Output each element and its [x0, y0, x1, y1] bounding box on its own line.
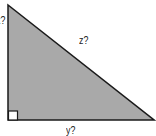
hypotenuse-label: z? [79, 34, 88, 46]
triangle-diagram [0, 0, 156, 136]
right-triangle [8, 5, 154, 120]
right-angle-marker [9, 111, 18, 120]
left-leg-label: x? [0, 14, 5, 26]
bottom-leg-label: y? [66, 124, 75, 136]
